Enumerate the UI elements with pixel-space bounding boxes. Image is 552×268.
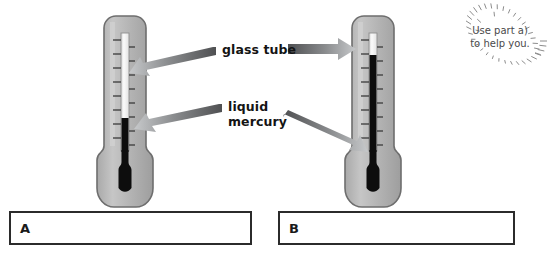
- thermometer-a: [97, 16, 153, 207]
- thermometer-b: [345, 16, 401, 207]
- label-liquid-mercury-line2: mercury: [228, 114, 287, 129]
- answer-box-a-letter: A: [20, 221, 30, 236]
- answer-box-a-input[interactable]: [37, 213, 246, 243]
- starburst-note: Use part a)to help you.: [452, 8, 548, 74]
- worksheet-canvas: glass tube liquidmercury Use part a)to h…: [0, 0, 552, 268]
- thermometer-a-mercury-column: [122, 118, 129, 152]
- thermometer-b-mercury-column: [370, 55, 377, 152]
- arrow-liquid-mercury-left: [134, 104, 222, 132]
- answer-box-b-input[interactable]: [306, 213, 509, 243]
- starburst-note-text: Use part a)to help you.: [452, 24, 548, 50]
- answer-box-b-letter: B: [289, 221, 299, 236]
- answer-box-b[interactable]: B: [278, 211, 515, 245]
- starburst-note-line1: Use part a): [472, 25, 528, 36]
- arrow-glass-tube-right: [288, 38, 356, 60]
- label-liquid-mercury: liquidmercury: [228, 99, 287, 129]
- starburst-note-line2: to help you.: [470, 38, 530, 49]
- answer-box-a[interactable]: A: [9, 211, 252, 245]
- label-glass-tube: glass tube: [222, 42, 296, 57]
- label-liquid-mercury-line1: liquid: [228, 99, 268, 114]
